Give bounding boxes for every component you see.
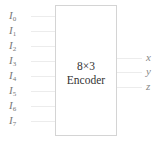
encoder-size-label: 8×3 — [55, 59, 117, 73]
output-label-z: z — [146, 80, 150, 92]
input-label-i3: I3 — [9, 54, 16, 70]
output-label-y: y — [146, 65, 151, 77]
input-line-i3 — [31, 61, 55, 62]
input-label-i1: I1 — [9, 24, 16, 40]
input-label-i2: I2 — [9, 39, 16, 55]
input-line-i4 — [31, 76, 55, 77]
input-line-i6 — [31, 106, 55, 107]
input-line-i7 — [31, 121, 55, 122]
output-label-x: x — [146, 51, 151, 63]
output-line-y — [117, 72, 142, 73]
input-label-i6: I6 — [9, 99, 16, 115]
output-line-z — [117, 87, 142, 88]
input-label-i7: I7 — [9, 114, 16, 130]
encoder-diagram: 8×3 Encoder I0 I1 I2 I3 I4 I5 I6 I7 x y … — [0, 0, 164, 149]
input-label-i5: I5 — [9, 84, 16, 100]
input-line-i0 — [31, 16, 55, 17]
output-line-x — [117, 58, 142, 59]
encoder-type-label: Encoder — [55, 73, 117, 87]
input-label-i0: I0 — [9, 9, 16, 25]
input-line-i5 — [31, 91, 55, 92]
input-line-i1 — [31, 31, 55, 32]
input-line-i2 — [31, 46, 55, 47]
input-label-i4: I4 — [9, 69, 16, 85]
encoder-title: 8×3 Encoder — [55, 59, 117, 87]
